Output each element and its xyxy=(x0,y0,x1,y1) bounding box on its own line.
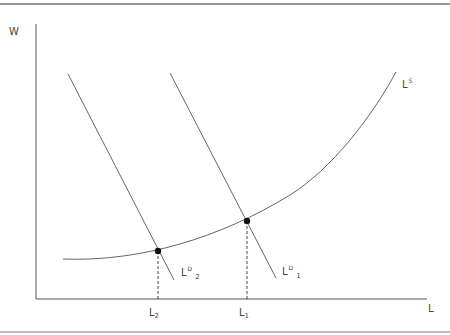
diagram-canvas xyxy=(0,0,450,335)
y-axis-label: W xyxy=(9,27,19,37)
supply-label: LS xyxy=(402,80,412,90)
x-axis-label: L xyxy=(428,304,434,314)
equilibrium-point-2 xyxy=(155,248,161,254)
x-tick-l2: L2 xyxy=(149,308,159,318)
demand1-label: LD1 xyxy=(282,267,301,277)
equilibrium-point-1 xyxy=(244,218,250,224)
supply-curve xyxy=(63,72,396,259)
demand-curve-1 xyxy=(170,73,276,278)
x-tick-l1: L1 xyxy=(239,308,249,318)
demand2-label: LD2 xyxy=(181,268,200,278)
